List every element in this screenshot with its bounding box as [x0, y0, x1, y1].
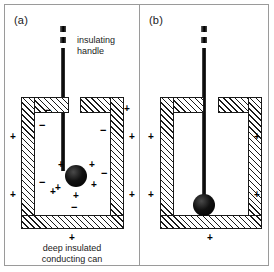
- panel-a-can-wall-right: [110, 97, 124, 229]
- panel-a-sphere-charge-5: +: [73, 191, 79, 201]
- panel-a-can-bottom: [21, 215, 124, 229]
- panel-b-handle-dash-1: [201, 26, 207, 32]
- panel-a-handle-dash-1: [60, 26, 66, 32]
- panel-a-label: (a): [14, 14, 28, 26]
- panel-a-outer-charge-6: +: [50, 187, 56, 197]
- panel-a-outer-charge-1: +: [10, 132, 16, 142]
- panel-a-outer-charge-7: +: [124, 104, 130, 114]
- panel-b-outer-charge-2: +: [148, 190, 154, 200]
- panel-a-sphere-charge-4: +: [91, 180, 97, 190]
- panel-b-outer-charge-4: +: [254, 190, 260, 200]
- panel-a-handle-dash-2: [60, 37, 66, 43]
- panel-b-label: (b): [149, 14, 163, 26]
- panel-a-sphere-charge-2: +: [89, 160, 95, 170]
- panel-a: (a) insulating handle + + + + +: [5, 5, 139, 265]
- panel-b-insulating-handle: [202, 48, 206, 206]
- panel-a-inner-charge-1: −: [39, 120, 45, 131]
- panel-a-outer-charge-3: +: [129, 132, 135, 142]
- panel-a-outer-charge-2: +: [10, 190, 16, 200]
- panel-b-outer-charge-5: +: [207, 233, 213, 243]
- panel-a-inner-charge-4: −: [101, 168, 107, 179]
- panel-a-insulating-handle-label-line1: insulating: [77, 35, 115, 46]
- panel-a-inner-charge-6: −: [45, 105, 51, 116]
- panel-b-outer-charge-3: +: [254, 132, 260, 142]
- panel-a-caption-line2: conducting can: [5, 254, 139, 265]
- physics-figure: (a) insulating handle + + + + +: [0, 0, 274, 272]
- panel-a-charged-sphere: [65, 165, 87, 187]
- panel-a-can-wall-left: [21, 97, 35, 229]
- panel-a-insulating-handle-label-line2: handle: [77, 46, 104, 57]
- panel-b: (b) + + + + +: [140, 5, 269, 265]
- panel-b-can-wall-left: [160, 97, 174, 229]
- panel-a-sphere-charge-1: +: [58, 160, 64, 170]
- panel-b-can-bottom: [160, 215, 262, 229]
- panel-b-outer-charge-1: +: [148, 132, 154, 142]
- panel-a-outer-charge-4: +: [129, 190, 135, 200]
- panel-a-caption-line1: deep insulated: [5, 243, 139, 254]
- panel-b-handle-dash-2: [201, 37, 207, 43]
- panel-a-inner-charge-5: −: [71, 202, 77, 213]
- panel-b-can-wall-right: [248, 97, 262, 229]
- panel-a-inner-charge-3: −: [39, 177, 45, 188]
- panel-a-inner-charge-2: −: [100, 125, 106, 136]
- panel-b-discharged-sphere: [193, 194, 215, 216]
- panel-a-outer-charge-5: +: [69, 233, 75, 243]
